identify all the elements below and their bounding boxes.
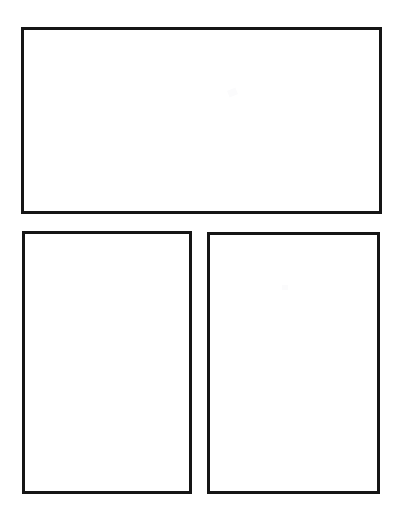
panel-bottom-left[interactable] [22,231,192,494]
page-canvas [0,0,404,520]
panel-top-wide[interactable] [21,27,382,214]
panel-bottom-left-interior[interactable] [25,234,189,491]
panel-bottom-right[interactable] [207,232,380,494]
panel-top-wide-interior[interactable] [24,30,379,211]
panel-bottom-right-interior[interactable] [210,235,377,491]
